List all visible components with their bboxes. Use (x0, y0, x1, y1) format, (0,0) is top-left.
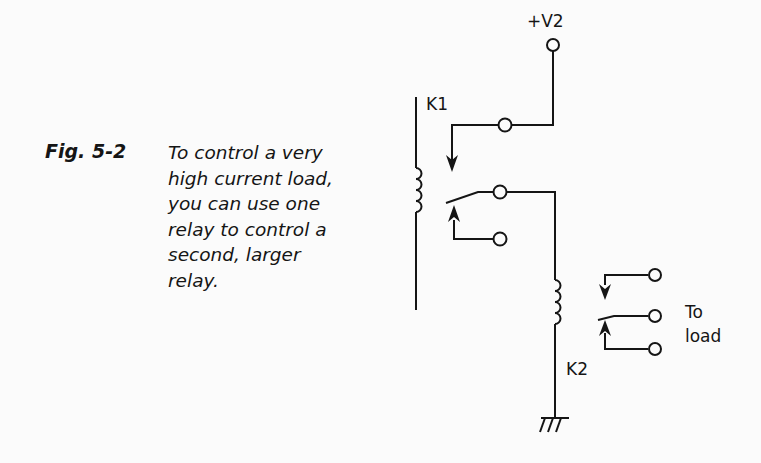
k2-feed-wire (507, 192, 555, 280)
supply-wire (512, 51, 553, 125)
ground-hatch (540, 418, 545, 432)
supply-terminal (547, 39, 559, 51)
k1-switch-terminal (494, 186, 507, 199)
k1-lower-contact-wire (454, 220, 493, 239)
k2-common-terminal (649, 310, 661, 322)
k1-common-terminal (499, 119, 512, 132)
relay-circuit-diagram: +V2 K1 K2 To load (0, 0, 761, 463)
ground-hatch (556, 418, 561, 432)
k2-switch-arm (598, 316, 648, 320)
k2-lower-terminal (649, 343, 661, 355)
k1-switch-arm (446, 192, 493, 203)
k2-upper-arrow-icon (599, 284, 611, 300)
relay-k2-label: K2 (566, 359, 588, 379)
k1-lower-terminal (494, 233, 507, 246)
k2-upper-terminal (649, 269, 661, 281)
relay-k1-label: K1 (426, 94, 448, 114)
k1-upper-contact-wire (452, 125, 498, 160)
k2-coil (555, 280, 561, 324)
k1-coil (416, 168, 422, 212)
ground-hatch (548, 418, 553, 432)
supply-label: +V2 (527, 11, 564, 31)
k2-upper-contact-wire (605, 275, 648, 285)
load-label-line2: load (685, 326, 721, 346)
k2-lower-contact-wire (605, 333, 648, 349)
k1-lower-arrow-icon (448, 205, 460, 222)
load-label-line1: To (684, 302, 703, 322)
